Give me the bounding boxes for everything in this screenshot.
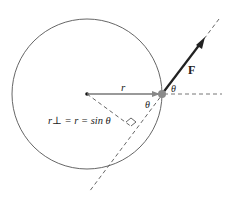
angle-outer-label: θ [171, 83, 176, 94]
force-label: F [188, 63, 195, 77]
radius-label: r [121, 81, 126, 93]
torque-diagram: r F θ θ r⊥ = r = sin θ [0, 0, 231, 202]
lever-arm-label: r⊥ = r = sin θ [48, 115, 111, 126]
particle [158, 90, 166, 98]
right-angle-marker [126, 118, 136, 126]
angle-inner-label: θ [145, 99, 150, 110]
